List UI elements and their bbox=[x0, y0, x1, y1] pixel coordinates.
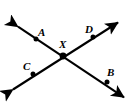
point-dot-x bbox=[60, 53, 67, 60]
point-label-c: C bbox=[23, 61, 30, 72]
line-ab-group bbox=[18, 27, 124, 98]
line-ab bbox=[18, 27, 124, 98]
point-dot-d bbox=[91, 35, 96, 40]
point-label-d: D bbox=[85, 24, 93, 35]
intersecting-lines-svg bbox=[0, 0, 134, 106]
point-label-a: A bbox=[38, 27, 45, 38]
point-dot-c bbox=[31, 72, 36, 77]
point-label-x: X bbox=[59, 39, 66, 50]
geometry-figure: A B C D X bbox=[0, 0, 134, 106]
point-dot-b bbox=[105, 80, 110, 85]
point-label-b: B bbox=[107, 67, 114, 78]
